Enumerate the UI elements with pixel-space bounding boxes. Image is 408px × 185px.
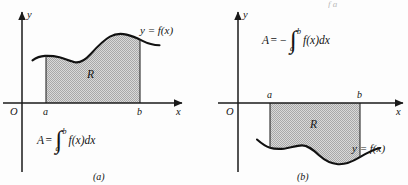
panel-b-formula-lhs: A: [262, 34, 269, 46]
panel-a-integral-upper-limit: b: [63, 127, 67, 136]
figure-svg: y x O a b R y = f(x) y x O a: [0, 0, 408, 185]
panel-b-tick-b: b: [357, 89, 362, 100]
panel-b-function-label: y = f(x): [351, 142, 385, 155]
panel-a-tick-b: b: [137, 106, 142, 117]
panel-b-region-fill: [270, 103, 360, 164]
panel-b-formula: A=−∫baf(x)dx: [262, 30, 330, 52]
panel-a-x-axis-label: x: [175, 106, 181, 117]
panel-a-formula-lhs: A: [37, 134, 44, 146]
panel-a-tick-a: a: [43, 106, 48, 117]
panel-b-tick-a: a: [267, 89, 272, 100]
panel-b-formula-integrand: f(x)dx: [303, 34, 330, 46]
panel-a-integral-lower-limit: a: [56, 144, 60, 153]
panel-a-caption: (a): [93, 171, 105, 183]
panel-b-x-axis-label: x: [395, 106, 401, 117]
panel-b-region-label: R: [309, 118, 317, 130]
panel-b-y-axis-label: y: [242, 9, 248, 20]
panel-a-y-axis-label: y: [26, 9, 32, 20]
panel-b-formula-equals: =: [269, 34, 279, 46]
panel-a-origin-label: O: [10, 106, 18, 117]
panel-b-integral-lower-limit: a: [290, 44, 294, 53]
panel-a-formula: A=∫baf(x)dx: [37, 130, 95, 152]
panel-b-caption: (b): [297, 171, 309, 183]
figure-container: f a y: [0, 0, 408, 185]
panel-b-origin-label: O: [226, 106, 234, 117]
panel-a-region-label: R: [86, 68, 94, 80]
panel-a-integral-sign: ∫ba: [55, 130, 68, 152]
panel-b-integral-sign: ∫ba: [289, 30, 302, 52]
panel-a-function-label: y = f(x): [139, 24, 173, 37]
panel-a-formula-equals: =: [44, 134, 54, 146]
panel-b-formula-minus: −: [279, 34, 289, 46]
panel-a-formula-integrand: f(x)dx: [69, 134, 96, 146]
panel-b-integral-upper-limit: b: [297, 27, 301, 36]
